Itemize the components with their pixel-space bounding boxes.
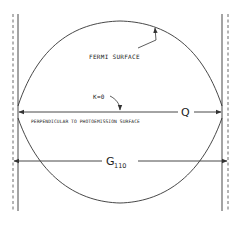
k-zero-pointer-arrow [110, 96, 120, 110]
fermi-surface-label: FERMI SURFACE [89, 53, 140, 60]
fermi-surface-upper-arc [18, 21, 222, 106]
q-label: Q [181, 106, 190, 119]
fermi-surface-lower-arc [18, 118, 222, 203]
g110-subscript: 110 [114, 162, 126, 170]
perpendicular-label: PERPENDICULAR TO PHOTOEMISSION SURFACE [31, 119, 140, 124]
k-zero-label: K=0 [93, 93, 105, 100]
fermi-pointer-arrow [138, 28, 156, 48]
fermi-surface-diagram: FERMI SURFACE K=0 Q PERPENDICULAR TO PHO… [0, 0, 238, 228]
